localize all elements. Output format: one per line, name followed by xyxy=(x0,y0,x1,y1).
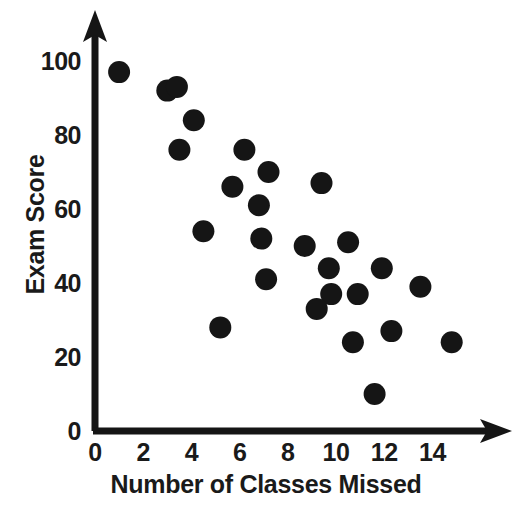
data-point xyxy=(318,257,340,279)
data-point xyxy=(380,320,402,342)
data-point xyxy=(209,316,231,338)
data-point xyxy=(311,172,333,194)
data-point xyxy=(441,331,463,353)
scatter-plot-figure: 02468101214 020406080100 Number of Class… xyxy=(0,0,532,516)
data-point xyxy=(108,61,130,83)
x-tick-label: 6 xyxy=(233,438,246,467)
data-point xyxy=(166,76,188,98)
x-tick-label: 8 xyxy=(281,438,294,467)
data-point xyxy=(221,176,243,198)
data-point-group xyxy=(108,61,463,405)
y-tick-label: 80 xyxy=(54,121,81,150)
y-tick-label: 40 xyxy=(54,269,81,298)
data-point xyxy=(409,276,431,298)
x-axis-title: Number of Classes Missed xyxy=(0,470,532,499)
data-point xyxy=(168,139,190,161)
y-axis-title: Exam Score xyxy=(21,100,50,350)
data-point xyxy=(192,220,214,242)
y-tick-label: 0 xyxy=(68,417,81,446)
data-point xyxy=(248,194,270,216)
data-point xyxy=(364,383,386,405)
data-point xyxy=(371,257,393,279)
data-point xyxy=(347,283,369,305)
data-point xyxy=(233,139,255,161)
y-tick-label: 100 xyxy=(41,47,81,76)
data-point xyxy=(255,268,277,290)
data-point xyxy=(342,331,364,353)
data-point xyxy=(258,161,280,183)
x-tick-label: 0 xyxy=(88,438,101,467)
data-point xyxy=(183,109,205,131)
data-point xyxy=(337,231,359,253)
data-point xyxy=(306,298,328,320)
x-tick-label: 2 xyxy=(136,438,149,467)
y-tick-label: 20 xyxy=(54,343,81,372)
x-tick-label: 12 xyxy=(371,438,398,467)
x-tick-label: 4 xyxy=(185,438,198,467)
y-tick-label: 60 xyxy=(54,195,81,224)
data-point xyxy=(294,235,316,257)
axes xyxy=(83,10,512,443)
x-tick-label: 10 xyxy=(323,438,350,467)
x-tick-label: 14 xyxy=(419,438,446,467)
data-point xyxy=(250,228,272,250)
